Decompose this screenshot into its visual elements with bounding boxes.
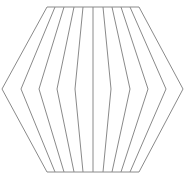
bulging-line-2 [21, 7, 55, 172]
hexagon-diagram [0, 0, 188, 188]
bulging-line-3 [39, 7, 64, 172]
bulging-line-4 [57, 7, 74, 172]
bulging-line-1 [2, 7, 47, 172]
bulging-lines-group [2, 7, 183, 172]
diagram-canvas [0, 0, 188, 188]
bulging-line-5 [75, 7, 83, 172]
bulging-line-7 [103, 7, 111, 172]
bulging-line-11 [139, 7, 183, 172]
bulging-line-9 [121, 7, 148, 172]
bulging-line-8 [112, 7, 130, 172]
